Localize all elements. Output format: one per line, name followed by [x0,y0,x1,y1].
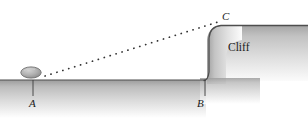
cliff-foot-shadow [200,78,260,104]
diagram-canvas [0,0,308,118]
point-label-c: C [222,11,229,22]
trajectory-dotted-line [45,22,218,76]
point-label-a: A [29,98,36,109]
point-label-b: B [197,98,204,109]
rock-icon [21,67,41,78]
cliff-label: Cliff [228,42,250,54]
cliff-diagram-figure: A B C Cliff [0,0,308,118]
